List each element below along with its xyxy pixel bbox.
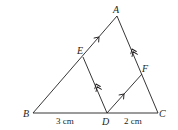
measurement-dc: 2 cm bbox=[124, 116, 142, 126]
side-ab bbox=[33, 16, 117, 113]
label-e: E bbox=[76, 45, 83, 56]
label-a: A bbox=[112, 4, 120, 15]
label-b: B bbox=[23, 108, 29, 119]
label-c: C bbox=[159, 108, 166, 119]
label-f: F bbox=[141, 63, 149, 74]
measurement-bd: 3 cm bbox=[56, 116, 74, 126]
segment-df bbox=[107, 74, 142, 113]
segment-de bbox=[83, 57, 107, 113]
triangle-diagram: A B C D E F 3 cm 2 cm bbox=[0, 0, 178, 130]
label-d: D bbox=[101, 116, 110, 127]
